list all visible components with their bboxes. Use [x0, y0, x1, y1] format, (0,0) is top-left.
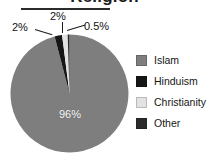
legend-swatch-islam [136, 55, 147, 66]
chart-title-cropped: Religion [0, 0, 209, 12]
pie-svg [10, 34, 129, 153]
leader-line-other [67, 24, 85, 31]
chart-title: Religion [0, 0, 209, 7]
pie-graphic [10, 34, 129, 153]
pie-callout-christianity: 2% [50, 11, 66, 22]
chart-legend: Islam Hinduism Christianity Other [136, 50, 209, 134]
pie-callout-hinduism: 2% [12, 22, 28, 33]
leader-line-christianity [62, 22, 63, 33]
legend-item-christianity[interactable]: Christianity [136, 92, 209, 113]
pie-label-islam: 96% [48, 108, 92, 120]
legend-label-other: Other [154, 118, 180, 129]
pie-chart-figure: Religion 96% 2% 2% 0.5% Islam Hinduism [0, 0, 209, 160]
legend-swatch-hinduism [136, 76, 147, 87]
legend-swatch-christianity [136, 97, 147, 108]
legend-label-hinduism: Hinduism [154, 76, 198, 87]
legend-label-islam: Islam [154, 55, 179, 66]
legend-label-christianity: Christianity [154, 97, 206, 108]
legend-item-hinduism[interactable]: Hinduism [136, 71, 209, 92]
legend-swatch-other [136, 118, 147, 129]
legend-item-islam[interactable]: Islam [136, 50, 209, 71]
legend-item-other[interactable]: Other [136, 113, 209, 134]
pie-callout-other: 0.5% [84, 21, 109, 32]
